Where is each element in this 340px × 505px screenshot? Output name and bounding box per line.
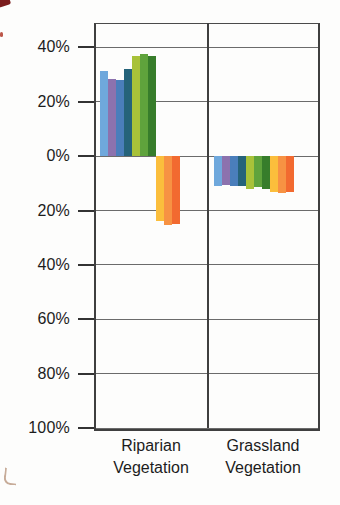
scan-artifact (0, 0, 11, 8)
category-label-line: Vegetation (91, 457, 211, 479)
bar-medium-blue-grassland (230, 156, 238, 186)
category-divider-line (207, 23, 209, 428)
bar-dark-green-grassland (262, 156, 270, 189)
category-label-line: Vegetation (203, 457, 323, 479)
y-tick-label: 20% (8, 202, 70, 220)
y-tick-label: 60% (8, 310, 70, 328)
scan-artifact (3, 467, 18, 485)
y-tick-mark (78, 46, 94, 48)
y-tick-mark (78, 427, 94, 429)
y-tick-mark (78, 210, 94, 212)
y-tick-label: 0% (8, 147, 70, 165)
y-tick-label: 100% (8, 419, 70, 437)
y-tick-label: 40% (8, 38, 70, 56)
y-tick-mark (78, 264, 94, 266)
bar-orange-riparian (164, 156, 172, 225)
bar-dark-teal-blue-riparian (124, 69, 132, 156)
bar-yellow-riparian (156, 156, 164, 221)
bar-yellow-grassland (270, 156, 278, 191)
y-tick-label: 20% (8, 93, 70, 111)
bar-dark-orange-grassland (286, 156, 294, 191)
bar-yellow-green-grassland (246, 156, 254, 189)
bar-medium-green-grassland (254, 156, 262, 187)
y-tick-mark (78, 155, 94, 157)
y-tick-mark (78, 101, 94, 103)
bar-light-blue-grassland (214, 156, 222, 186)
y-tick-label: 80% (8, 365, 70, 383)
bar-dark-teal-blue-grassland (238, 156, 246, 186)
y-tick-mark (78, 318, 94, 320)
bar-light-blue-riparian (100, 71, 108, 157)
bar-medium-blue-riparian (116, 80, 124, 156)
category-label-riparian: Riparian Vegetation (91, 435, 211, 479)
bar-dark-orange-riparian (172, 156, 180, 224)
category-label-grassland: Grassland Vegetation (203, 435, 323, 479)
scan-artifact (0, 32, 3, 37)
scanned-bar-chart: 40%20%0%20%40%60%80%100% Riparian Vegeta… (0, 0, 340, 505)
bar-medium-green-riparian (140, 54, 148, 156)
y-tick-mark (78, 373, 94, 375)
bar-purple-grassland (222, 156, 230, 185)
category-label-line: Riparian (91, 435, 211, 457)
bar-yellow-green-riparian (132, 56, 140, 157)
category-label-line: Grassland (203, 435, 323, 457)
bar-purple-riparian (108, 79, 116, 156)
bar-orange-grassland (278, 156, 286, 193)
y-tick-label: 40% (8, 256, 70, 274)
bar-dark-green-riparian (148, 56, 156, 157)
